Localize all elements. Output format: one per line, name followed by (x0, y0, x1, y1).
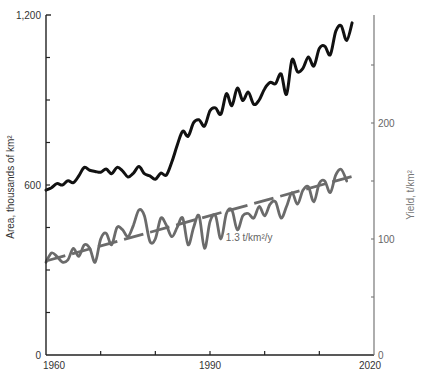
left-axis-title: Area, thousands of km² (5, 135, 16, 239)
x-axis-tick-label: 1990 (199, 360, 222, 371)
left-axis-tick-label: 1,200 (16, 10, 41, 21)
right-axis-tick-label: 100 (378, 234, 395, 245)
plot-layer (46, 23, 352, 263)
left-axis-tick-label: 0 (35, 350, 41, 361)
right-axis-tick-label: 200 (378, 118, 395, 129)
x-axis-tick-label: 2020 (359, 360, 382, 371)
right-axis-title: Yield, t/km² (405, 170, 416, 220)
series-line-area (46, 23, 352, 190)
left-axis-tick-label: 600 (24, 180, 41, 191)
labels-layer: 06001,2001960199020200100200Area, thousa… (5, 10, 416, 371)
x-axis-tick-label: 1960 (43, 360, 66, 371)
dual-axis-line-chart: 06001,2001960199020200100200Area, thousa… (0, 0, 422, 379)
right-axis-tick-label: 0 (378, 350, 384, 361)
trend-annotation: 1.3 t/km²/y (226, 232, 273, 243)
